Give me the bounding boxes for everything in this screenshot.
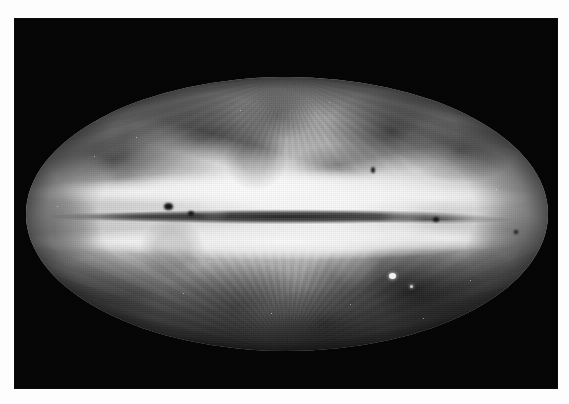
speckle [470,280,471,281]
photographic-plate [15,19,557,388]
figure-page [0,0,569,404]
speckle [209,261,210,262]
speckle [423,318,424,319]
speckle [329,102,330,103]
ellipse-limb-vignette [26,77,548,351]
dark-blob-north-east [371,167,375,173]
figure-caption [15,390,557,402]
bright-point-source [389,273,396,279]
dark-blob-plane-right [433,217,439,222]
speckle [240,110,241,111]
mollweide-sky-map [26,77,548,351]
bright-point-source-small [410,285,413,288]
